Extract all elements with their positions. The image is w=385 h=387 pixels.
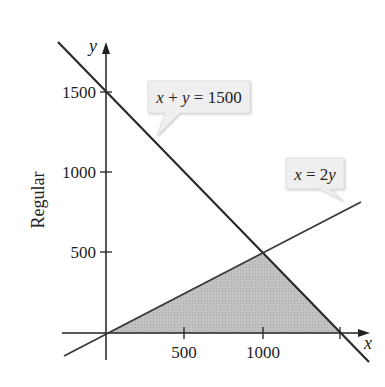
x-tick-label-1000: 1000	[246, 343, 280, 362]
y-tick-label-500: 500	[71, 243, 97, 262]
linear-programming-chart: 500 1000 500 1000 1500 x y Regular x + y…	[0, 0, 385, 387]
feasible-region	[106, 252, 340, 333]
x-axis-variable: x	[363, 333, 372, 353]
y-axis-variable: y	[87, 36, 97, 56]
y-tick-label-1000: 1000	[62, 163, 96, 182]
y-axis-arrow-icon	[102, 42, 110, 54]
callout-x-plus-y-text: x + y = 1500	[155, 88, 241, 107]
y-axis-title: Regular	[28, 172, 48, 229]
x-tick-label-500: 500	[171, 343, 197, 362]
callout-x-equals-2y-text: x = 2y	[293, 165, 336, 184]
y-tick-label-1500: 1500	[62, 83, 96, 102]
